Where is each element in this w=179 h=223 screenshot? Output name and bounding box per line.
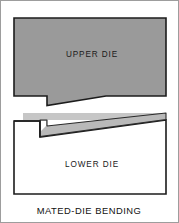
figure-caption: MATED-DIE BENDING: [37, 205, 142, 216]
figure-root: UPPER DIE LOWER DIE MATED-DIE BENDING: [0, 0, 179, 223]
lower-die-label: LOWER DIE: [65, 160, 119, 169]
upper-die-label: UPPER DIE: [66, 50, 118, 59]
lower-die-shape: [14, 120, 166, 194]
upper-die-shape: [14, 18, 166, 106]
mated-die-bending-diagram: UPPER DIE LOWER DIE MATED-DIE BENDING: [0, 0, 179, 223]
